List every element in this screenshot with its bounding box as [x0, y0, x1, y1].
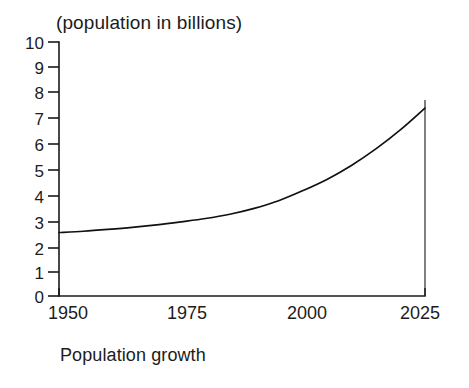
y-tick-label: 2: [35, 240, 44, 259]
x-tick-label: 1950: [48, 303, 88, 323]
y-tick-label: 4: [35, 188, 44, 207]
x-tick-label: 1975: [167, 303, 207, 323]
chart-plot-area: 10 9 8 7 6 5 4 3 2 1 0 1950 1975 2000 20…: [0, 0, 469, 388]
y-tick-label: 7: [35, 110, 44, 129]
x-axis-tick-labels: 1950 1975 2000 2025: [48, 303, 440, 323]
chart-caption: Population growth: [60, 344, 206, 366]
y-tick-label: 3: [35, 214, 44, 233]
y-tick-label: 10: [25, 34, 44, 53]
y-tick-label: 0: [35, 288, 44, 307]
y-axis-tick-labels: 10 9 8 7 6 5 4 3 2 1 0: [25, 34, 44, 307]
y-tick-label: 8: [35, 84, 44, 103]
y-tick-marks: [48, 42, 59, 296]
y-tick-label: 9: [35, 59, 44, 78]
x-tick-marks: [59, 288, 425, 296]
y-tick-label: 1: [35, 264, 44, 283]
population-curve: [59, 108, 425, 232]
x-tick-label: 2025: [400, 303, 440, 323]
population-growth-figure: (population in billions) 10 9 8 7 6: [0, 0, 469, 388]
x-tick-label: 2000: [287, 303, 327, 323]
y-tick-label: 5: [35, 162, 44, 181]
y-tick-label: 6: [35, 136, 44, 155]
